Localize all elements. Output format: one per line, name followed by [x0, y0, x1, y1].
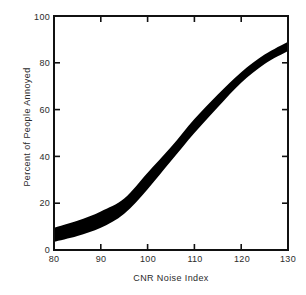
data-band — [54, 42, 288, 242]
plot-frame — [54, 16, 288, 250]
tick-marks — [54, 16, 288, 250]
plot-area — [0, 0, 306, 295]
chart-figure: Percent of People Annoyed CNR Noise Inde… — [0, 0, 306, 295]
caption-strip-cropped — [0, 289, 306, 295]
